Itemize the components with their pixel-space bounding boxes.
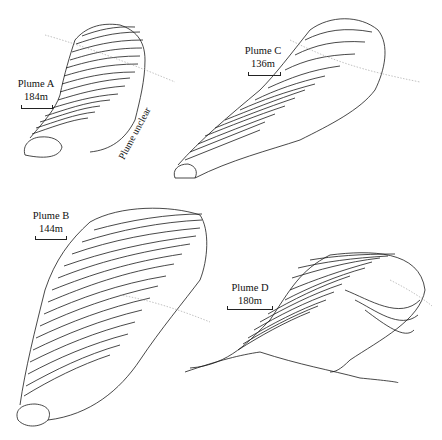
- plume-d-title: Plume D: [228, 282, 272, 294]
- plume-b-scale-bar: [35, 236, 67, 240]
- plume-b-title: Plume B: [29, 210, 73, 222]
- plume-a-scale: 184m: [14, 91, 58, 103]
- plume-c-title: Plume C: [241, 45, 285, 57]
- plume-c-drawing: [174, 19, 420, 178]
- plume-c-scale-bar: [248, 72, 281, 76]
- plume-a-title: Plume A: [14, 78, 58, 90]
- plume-b-scale: 144m: [29, 223, 73, 235]
- plume-c-scale: 136m: [241, 58, 285, 70]
- plume-a-scale-bar: [21, 105, 53, 109]
- plume-b-drawing: [17, 208, 210, 426]
- plume-d-scale-bar: [227, 306, 273, 310]
- plume-figure: Plume A 184m Plume unclear Plume C 136m …: [0, 0, 442, 440]
- plume-d-drawing: [185, 253, 432, 383]
